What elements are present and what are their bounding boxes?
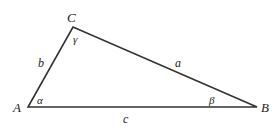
angle-label-beta: β — [208, 94, 215, 106]
vertex-label-b: B — [261, 100, 269, 115]
side-label-c: c — [123, 112, 129, 126]
triangle-diagram: A B C a b c α β γ — [0, 0, 280, 131]
vertex-label-c: C — [67, 10, 76, 25]
angle-label-alpha: α — [37, 94, 43, 106]
vertex-label-a: A — [12, 100, 21, 115]
triangle-outline — [28, 27, 257, 107]
angle-label-gamma: γ — [73, 33, 78, 45]
side-label-b: b — [38, 56, 44, 70]
side-label-a: a — [175, 56, 181, 70]
